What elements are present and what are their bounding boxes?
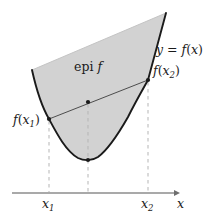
tick-label-x1: x1	[42, 196, 54, 213]
label-f-x1: f(x1)	[12, 112, 40, 129]
point-f-x2	[146, 78, 150, 82]
tick-label-x1-sub: 1	[49, 203, 54, 213]
point-chord-midpoint	[86, 100, 90, 104]
point-curve-vertex	[86, 158, 90, 162]
label-epi-word: epi	[74, 59, 93, 74]
label-curve-x: x	[191, 42, 198, 57]
figure-canvas: epi f y = f(x) f(x2) f(x1) x1 x2 x	[0, 0, 217, 220]
label-f-x2-paren-close: )	[175, 63, 180, 78]
tick-label-x1-var: x	[42, 196, 49, 211]
epigraph-figure: epi f y = f(x) f(x2) f(x1) x1 x2 x	[0, 0, 217, 220]
label-f-x2-x: x	[163, 63, 170, 78]
label-f-x1-x: x	[23, 112, 30, 127]
label-f-x1-paren-close: )	[35, 112, 40, 127]
label-curve-equals: =	[167, 42, 177, 57]
epigraph-shaded-region	[32, 13, 166, 160]
tick-label-x2-sub: 2	[147, 203, 153, 213]
tick-label-x2-var: x	[141, 196, 148, 211]
label-curve-paren-close: )	[198, 42, 203, 57]
label-curve-equation: y = f(x)	[155, 42, 203, 57]
label-epi-f: epi f	[74, 59, 104, 74]
axis-label-x: x	[177, 196, 184, 211]
label-f-x2: f(x2)	[152, 63, 180, 80]
tick-label-x2: x2	[141, 196, 153, 213]
point-f-x1	[47, 117, 51, 121]
